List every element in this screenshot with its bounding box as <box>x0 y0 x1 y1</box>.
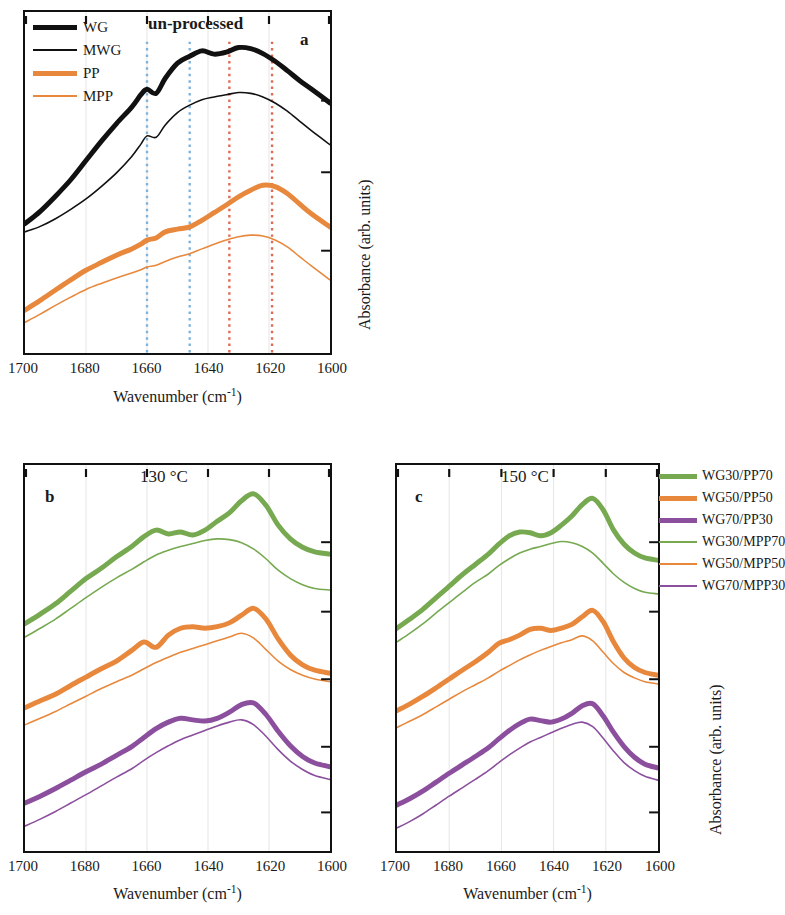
xtick-label: 1620 <box>255 858 285 875</box>
legend-swatch-wg30-pp70 <box>659 474 697 479</box>
panel-c-title: 150 °C <box>501 467 549 487</box>
xtick-label: 1680 <box>70 360 100 377</box>
panel-c-letter: c <box>415 487 423 507</box>
panel-b-title: 130 °C <box>140 467 188 487</box>
legend-label: PP <box>83 65 100 82</box>
legend-swatch-wg50-pp50 <box>659 496 697 501</box>
legend-swatch-mwg <box>33 49 77 51</box>
xtick-label: 1660 <box>132 360 162 377</box>
legend-label: WG70/MPP30 <box>702 578 785 594</box>
legend-item: WG70/MPP30 <box>659 575 785 597</box>
legend-item: MWG <box>33 41 121 59</box>
legend-item: WG30/PP70 <box>659 465 785 487</box>
panel-b-xtick-labels: 1700 1680 1660 1640 1620 1600 <box>23 858 332 878</box>
xaxis-title-text: Wavenumber (cm <box>463 885 577 902</box>
legend-swatch-wg <box>33 25 77 30</box>
legend-label: MWG <box>83 42 121 59</box>
xtick-label: 1680 <box>433 858 463 875</box>
panel-c: 150 °C c WG30/PP70 WG50/PP50 WG70/PP30 W… <box>383 455 777 915</box>
panel-c-plot-area <box>395 463 660 853</box>
panel-b-curves <box>25 465 330 851</box>
xtick-label: 1600 <box>317 360 347 377</box>
legend-item: WG30/MPP70 <box>659 531 785 553</box>
xaxis-title-sup: -1 <box>227 883 237 895</box>
legend-swatch-pp <box>33 71 77 76</box>
xaxis-title-tail: ) <box>237 885 242 902</box>
xaxis-title-tail: ) <box>587 885 592 902</box>
legend-label: WG30/PP70 <box>702 468 773 484</box>
legend-swatch-wg70-mpp30 <box>659 585 697 587</box>
xtick-label: 1600 <box>317 858 347 875</box>
xaxis-title-sup: -1 <box>227 386 237 398</box>
legend-label: WG30/MPP70 <box>702 534 785 550</box>
panel-a-legend: WG MWG PP MPP <box>33 18 121 105</box>
xtick-label: 1640 <box>193 360 223 377</box>
legend-item: WG <box>33 18 121 36</box>
xtick-label: 1640 <box>539 858 569 875</box>
xtick-label: 1640 <box>193 858 223 875</box>
xaxis-title-text: Wavenumber (cm <box>113 885 227 902</box>
xtick-label: 1700 <box>8 360 38 377</box>
panel-a-title: un-processed <box>148 14 243 34</box>
xtick-label: 1660 <box>132 858 162 875</box>
legend-swatch-wg50-mpp50 <box>659 563 697 565</box>
legend-item: WG50/PP50 <box>659 487 785 509</box>
panel-c-xtick-labels: 1700 1680 1660 1640 1620 1600 <box>395 858 660 878</box>
xtick-label: 1660 <box>486 858 516 875</box>
panel-b: 130 °C b 1700 1680 1660 1640 1620 1600 W… <box>0 455 370 915</box>
panel-c-legend: WG30/PP70 WG50/PP50 WG70/PP30 WG30/MPP70… <box>659 465 785 597</box>
xtick-label: 1700 <box>380 858 410 875</box>
legend-swatch-mpp <box>33 95 77 97</box>
legend-label: WG50/MPP50 <box>702 556 785 572</box>
legend-item: WG50/MPP50 <box>659 553 785 575</box>
legend-label: WG <box>83 19 108 36</box>
legend-label: WG50/PP50 <box>702 490 773 506</box>
xaxis-title-tail: ) <box>237 388 242 405</box>
legend-label: WG70/PP30 <box>702 512 773 528</box>
panel-a-letter: a <box>300 30 309 50</box>
panel-a-yaxis-title: Absorbance (arb. units) <box>356 179 374 330</box>
legend-swatch-wg30-mpp70 <box>659 541 697 543</box>
panel-a-xtick-labels: 1700 1680 1660 1640 1620 1600 <box>23 360 332 380</box>
panel-c-yaxis-title: Absorbance (arb. units) <box>707 684 725 835</box>
panel-a: WG MWG PP MPP un-processed a 1700 1680 1… <box>0 0 390 430</box>
legend-item: WG70/PP30 <box>659 509 785 531</box>
panel-b-xaxis-title: Wavenumber (cm-1) <box>23 883 332 903</box>
panel-c-xaxis-title: Wavenumber (cm-1) <box>395 883 660 903</box>
xtick-label: 1620 <box>592 858 622 875</box>
panel-a-xaxis-title: Wavenumber (cm-1) <box>23 386 332 406</box>
xtick-label: 1600 <box>645 858 675 875</box>
legend-swatch-wg70-pp30 <box>659 518 697 523</box>
xaxis-title-text: Wavenumber (cm <box>113 388 227 405</box>
legend-item: PP <box>33 64 121 82</box>
panel-b-letter: b <box>45 487 54 507</box>
legend-item: MPP <box>33 87 121 105</box>
panel-b-plot-area <box>23 463 332 853</box>
legend-label: MPP <box>83 88 113 105</box>
xtick-label: 1700 <box>8 858 38 875</box>
xtick-label: 1620 <box>255 360 285 377</box>
panel-c-curves <box>397 465 658 851</box>
xaxis-title-sup: -1 <box>577 883 587 895</box>
xtick-label: 1680 <box>70 858 100 875</box>
